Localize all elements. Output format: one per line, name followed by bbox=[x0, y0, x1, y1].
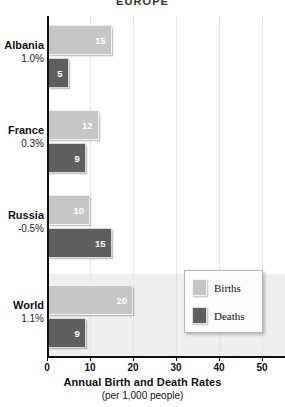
bar-russia-deaths: 15 bbox=[47, 228, 112, 258]
x-tick-label-50: 50 bbox=[256, 362, 267, 373]
category-name: Russia bbox=[0, 209, 44, 222]
category-label-albania: Albania 1.0% bbox=[0, 39, 44, 65]
legend-label: Births bbox=[214, 282, 241, 294]
category-label-world: World 1.1% bbox=[0, 299, 44, 325]
legend-item-deaths: Deaths bbox=[192, 307, 245, 324]
category-growth-rate: 1.0% bbox=[0, 52, 44, 65]
bar-albania-deaths: 5 bbox=[47, 58, 69, 88]
x-axis-title: Annual Birth and Death Rates bbox=[0, 376, 285, 388]
category-label-france: France 0.3% bbox=[0, 124, 44, 150]
category-growth-rate: -0.5% bbox=[0, 222, 44, 235]
category-name: Albania bbox=[0, 39, 44, 52]
bar-russia-births: 10 bbox=[47, 195, 90, 225]
legend-swatch-births-icon bbox=[192, 279, 207, 296]
chart-legend: Births Deaths bbox=[184, 270, 263, 333]
legend-swatch-deaths-icon bbox=[192, 307, 207, 324]
x-tick-30 bbox=[176, 356, 177, 361]
bar-value: 5 bbox=[57, 68, 62, 79]
x-tick-label-0: 0 bbox=[44, 362, 50, 373]
category-label-russia: Russia -0.5% bbox=[0, 209, 44, 235]
x-tick-50 bbox=[262, 356, 263, 361]
x-axis-subtitle: (per 1,000 people) bbox=[0, 390, 285, 401]
bar-value: 9 bbox=[74, 153, 79, 164]
x-tick-label-20: 20 bbox=[127, 362, 138, 373]
bar-value: 9 bbox=[74, 328, 79, 339]
bar-value: 20 bbox=[116, 295, 127, 306]
legend-item-births: Births bbox=[192, 279, 241, 296]
category-name: France bbox=[0, 124, 44, 137]
bar-value: 12 bbox=[82, 120, 93, 131]
bar-world-births: 20 bbox=[47, 285, 133, 315]
bar-france-deaths: 9 bbox=[47, 143, 86, 173]
x-tick-10 bbox=[90, 356, 91, 361]
x-tick-label-40: 40 bbox=[213, 362, 224, 373]
x-tick-0 bbox=[47, 356, 48, 361]
bar-value: 10 bbox=[73, 205, 84, 216]
x-tick-label-10: 10 bbox=[84, 362, 95, 373]
bar-albania-births: 15 bbox=[47, 25, 112, 55]
gridline-20 bbox=[133, 16, 134, 356]
legend-label: Deaths bbox=[214, 310, 245, 322]
x-tick-20 bbox=[133, 356, 134, 361]
x-axis-line bbox=[47, 356, 285, 358]
bar-value: 15 bbox=[95, 238, 106, 249]
x-tick-40 bbox=[219, 356, 220, 361]
bar-world-deaths: 9 bbox=[47, 318, 86, 348]
bar-france-births: 12 bbox=[47, 110, 99, 140]
gridline-30 bbox=[176, 16, 177, 356]
chart-title: EUROPE bbox=[0, 0, 285, 7]
x-axis-caption: Annual Birth and Death Rates (per 1,000 … bbox=[0, 376, 285, 401]
y-axis-line bbox=[47, 16, 49, 357]
category-growth-rate: 1.1% bbox=[0, 312, 44, 325]
category-growth-rate: 0.3% bbox=[0, 137, 44, 150]
category-name: World bbox=[0, 299, 44, 312]
x-tick-label-30: 30 bbox=[170, 362, 181, 373]
birth-death-rates-chart: EUROPE Albania 1.0% 15 5 France 0.3% 12 … bbox=[0, 0, 285, 407]
bar-value: 15 bbox=[95, 35, 106, 46]
